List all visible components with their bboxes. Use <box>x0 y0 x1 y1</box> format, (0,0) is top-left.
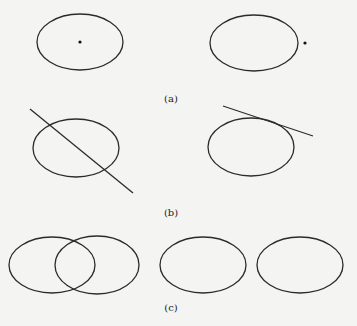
panel-b: (b) <box>30 106 313 218</box>
ellipse-b-left <box>33 119 119 177</box>
panel-a: (a) <box>37 14 307 104</box>
panel-label-b: (b) <box>164 207 178 218</box>
ellipse-a-right <box>210 15 298 71</box>
panel-label-a: (a) <box>164 93 178 104</box>
tangent-line <box>223 106 313 136</box>
ellipse-c-separate-2 <box>257 237 343 293</box>
panel-label-c: (c) <box>164 302 178 313</box>
secant-line <box>30 109 133 193</box>
panel-c: (c) <box>9 236 343 313</box>
ellipse-b-right <box>208 118 294 176</box>
ellipse-c-overlap-1 <box>9 237 95 293</box>
point-inside <box>78 40 81 43</box>
ellipse-c-separate-1 <box>160 237 246 293</box>
point-outside <box>303 41 306 44</box>
ellipse-relations-figure: (a) (b) (c) <box>0 0 357 326</box>
ellipse-c-overlap-2 <box>55 236 139 294</box>
